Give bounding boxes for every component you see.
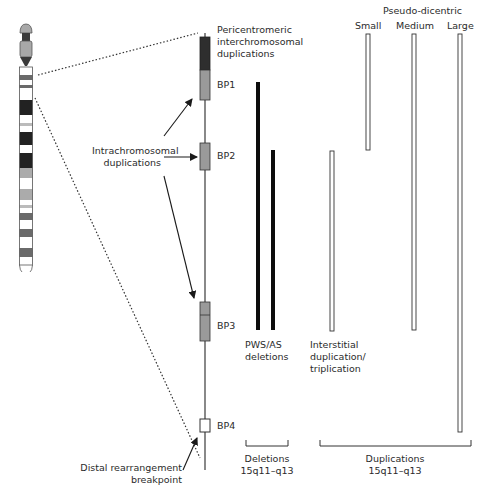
arrow-to-bp4 bbox=[183, 438, 197, 470]
chromosome-band bbox=[20, 123, 33, 126]
distal-breakpoint-label: Distal rearrangement breakpoint bbox=[72, 462, 182, 486]
chromosome-satellite bbox=[20, 41, 32, 57]
arrow-to-bp1 bbox=[164, 99, 192, 136]
chromosome-band bbox=[20, 132, 33, 145]
chromosome-band bbox=[20, 208, 33, 213]
bp1-label: BP1 bbox=[217, 79, 235, 91]
chromosome-stalk bbox=[22, 33, 30, 41]
pws-as-deletions-label: PWS/AS deletions bbox=[245, 339, 289, 363]
deletions-bracket bbox=[246, 440, 288, 446]
bp3-block bbox=[200, 302, 210, 341]
deletion-bar-bp2-bp3 bbox=[271, 150, 275, 330]
duplications-bracket bbox=[320, 440, 471, 446]
medium-label: Medium bbox=[396, 20, 434, 32]
bp4-label: BP4 bbox=[217, 420, 235, 432]
small-label: Small bbox=[355, 20, 381, 32]
bp2-label: BP2 bbox=[217, 150, 235, 162]
chromosome-band bbox=[20, 205, 33, 208]
deletions-group-label: Deletions 15q11–q13 bbox=[232, 453, 302, 477]
chromosome-band bbox=[20, 200, 33, 205]
bp3-label: BP3 bbox=[217, 320, 235, 332]
bp2-block bbox=[200, 143, 210, 170]
interstitial-label: Interstitial duplication/ triplication bbox=[310, 339, 366, 375]
intrachromosomal-label: Intrachromosomal duplications bbox=[92, 145, 161, 169]
chromosome-q-tel bbox=[20, 265, 33, 272]
large-label: Large bbox=[447, 20, 474, 32]
chromosome-band bbox=[20, 178, 33, 189]
diagram-canvas bbox=[0, 0, 484, 491]
deletion-bar-bp1-bp3 bbox=[256, 82, 260, 330]
pseudo-dicentric-medium-bar bbox=[412, 34, 416, 330]
arrow-to-bp3 bbox=[164, 176, 194, 298]
chromosome-centromere bbox=[20, 57, 32, 66]
chromosome-band bbox=[20, 248, 33, 257]
duplications-group-label: Duplications 15q11–q13 bbox=[355, 453, 435, 477]
chromosome-band bbox=[20, 220, 33, 229]
pericentromeric-label: Pericentromeric interchromosomal duplica… bbox=[217, 24, 303, 60]
chromosome-band bbox=[20, 115, 33, 123]
chromosome-band bbox=[20, 168, 33, 178]
bp1-block bbox=[200, 37, 210, 100]
chromosome-band bbox=[20, 126, 33, 132]
pseudo-dicentric-small-bar bbox=[366, 34, 370, 150]
pseudo-dicentric-label: Pseudo-dicentric bbox=[383, 5, 462, 17]
chromosome-ideogram bbox=[20, 24, 33, 272]
chromosome-bands bbox=[20, 67, 33, 265]
chromosome-band bbox=[20, 153, 33, 168]
chromosome-band bbox=[20, 145, 33, 153]
interstitial-dup-bar bbox=[330, 151, 334, 331]
pseudo-dicentric-large-bar bbox=[458, 34, 462, 432]
chromosome-p-cap bbox=[20, 24, 32, 33]
chromosome-band bbox=[20, 237, 33, 248]
chromosome-band bbox=[20, 85, 33, 88]
chromosome-band bbox=[20, 88, 33, 100]
chromosome-band bbox=[20, 75, 33, 80]
bp4-block bbox=[200, 419, 210, 432]
chromosome-band bbox=[20, 213, 33, 220]
chromosome-band bbox=[20, 80, 33, 85]
chromosome-band bbox=[20, 189, 33, 200]
chromosome-band bbox=[20, 67, 33, 75]
zoom-line-top bbox=[38, 33, 198, 75]
chromosome-band bbox=[20, 257, 33, 265]
chromosome-band bbox=[20, 100, 33, 115]
chromosome-band bbox=[20, 229, 33, 237]
